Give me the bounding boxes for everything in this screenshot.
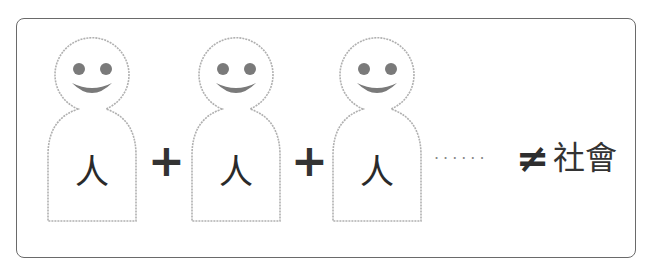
person-figure-1: 人 [46, 35, 138, 222]
plus-sign: + [291, 139, 328, 183]
not-equal-sign: ≠ [516, 138, 550, 178]
person-label: 人 [331, 145, 423, 194]
person-figure-3: 人 [331, 35, 423, 222]
result-text: 社會 [553, 142, 617, 174]
person-label: 人 [46, 145, 138, 194]
ellipsis-dots: ······ [434, 149, 489, 168]
plus-sign: + [148, 139, 185, 183]
person-figure-2: 人 [190, 35, 282, 222]
person-label: 人 [190, 145, 282, 194]
